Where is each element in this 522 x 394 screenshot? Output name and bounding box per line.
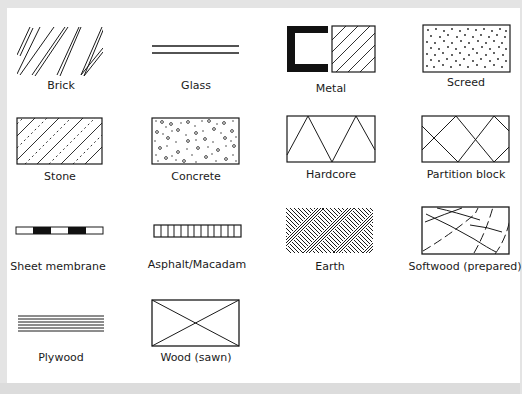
label-asphalt-macadam: Asphalt/Macadam	[148, 258, 246, 271]
brick-symbol	[17, 27, 104, 76]
label-wood-sawn: Wood (sawn)	[160, 351, 231, 364]
concrete-symbol	[152, 118, 239, 164]
glass-symbol	[152, 46, 239, 53]
label-stone: Stone	[44, 170, 76, 183]
asphalt-macadam-symbol	[154, 225, 241, 237]
label-concrete: Concrete	[171, 170, 221, 183]
label-sheet-membrane: Sheet membrane	[10, 260, 105, 273]
softwood-prepared-symbol	[422, 207, 511, 254]
label-glass: Glass	[181, 79, 211, 92]
plywood-symbol	[18, 316, 104, 331]
label-brick: Brick	[47, 79, 75, 92]
label-softwood-prepared: Softwood (prepared)	[408, 260, 521, 273]
earth-symbol	[246, 208, 415, 253]
label-metal: Metal	[316, 82, 346, 95]
screed-symbol	[423, 25, 510, 72]
hardcore-symbol	[287, 116, 375, 162]
sheet-membrane-symbol	[16, 227, 103, 234]
label-partition-block: Partition block	[427, 168, 506, 181]
stone-symbol	[17, 118, 102, 164]
label-screed: Screed	[447, 76, 485, 89]
label-earth: Earth	[315, 260, 345, 273]
label-hardcore: Hardcore	[306, 168, 356, 181]
wood-sawn-symbol	[152, 300, 239, 346]
metal-symbol	[287, 26, 375, 72]
partition-block-symbol	[422, 116, 509, 162]
label-plywood: Plywood	[38, 351, 84, 364]
